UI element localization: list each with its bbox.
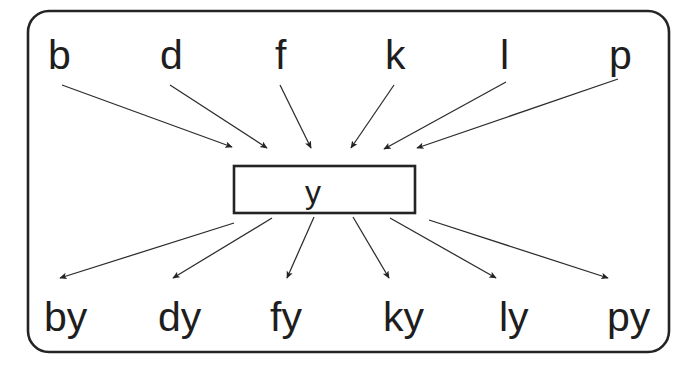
prefix-label-d: d <box>160 35 183 76</box>
result-label-ky: ky <box>383 297 424 338</box>
prefix-label-l: l <box>500 35 509 76</box>
word-matrix-svg <box>0 0 695 374</box>
base-box <box>234 166 415 213</box>
prefix-label-f: f <box>275 35 286 76</box>
prefix-label-b: b <box>48 35 71 76</box>
prefix-label-p: p <box>609 35 632 76</box>
prefix-label-k: k <box>385 35 406 76</box>
result-label-py: py <box>607 297 650 338</box>
result-label-fy: fy <box>270 297 302 338</box>
result-label-dy: dy <box>158 297 201 338</box>
diagram-canvas: y b d f k l p by dy fy ky ly py <box>0 0 695 374</box>
base-word-label: y <box>305 176 321 208</box>
result-label-ly: ly <box>499 297 529 338</box>
result-label-by: by <box>44 297 87 338</box>
